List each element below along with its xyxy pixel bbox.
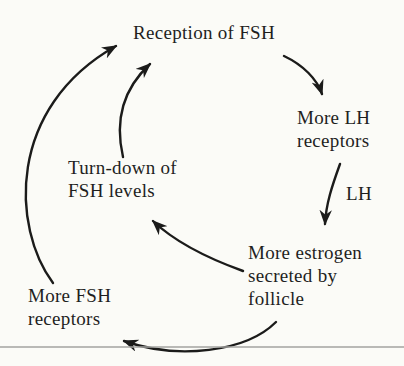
node-reception-of-fsh: Reception of FSH (133, 21, 275, 44)
node-label-line: Turn-down of (68, 156, 177, 179)
node-label-line: secreted by (248, 264, 362, 287)
edge-label-lh: LH (346, 182, 372, 205)
node-label-line: More LH (297, 106, 370, 129)
node-label-line: FSH levels (68, 179, 177, 202)
diagram-canvas: Reception of FSH More LH receptors LH Tu… (0, 0, 404, 366)
node-turndown-of-fsh-levels: Turn-down of FSH levels (68, 156, 177, 202)
arrow-estrogen-to-turndown (153, 221, 243, 271)
node-label-line: follicle (248, 287, 362, 310)
node-label-line: receptors (297, 129, 370, 152)
arrow-lh-receptors-to-estrogen (325, 164, 340, 224)
node-label: Reception of FSH (133, 22, 275, 43)
arrow-turndown-to-reception (120, 64, 150, 157)
node-label-line: receptors (28, 307, 111, 330)
node-label-line: More estrogen (248, 241, 362, 264)
arrow-reception-to-lh-receptors (284, 56, 322, 94)
node-label-line: More FSH (28, 284, 111, 307)
node-more-estrogen-secreted-by-follicle: More estrogen secreted by follicle (248, 241, 362, 310)
node-more-lh-receptors: More LH receptors (297, 106, 370, 152)
node-more-fsh-receptors: More FSH receptors (28, 284, 111, 330)
